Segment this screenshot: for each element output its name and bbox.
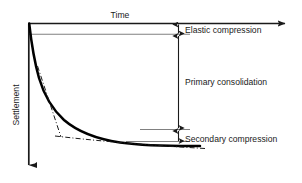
elastic-compression-label: Elastic compression [185, 25, 262, 35]
primary-consolidation-label: Primary consolidation [185, 77, 267, 87]
y-axis-label: Settlement [11, 84, 21, 126]
settlement-time-diagram: Time Settlement Elastic compression Prim… [0, 0, 302, 183]
secondary-compression-label: Secondary compression [185, 134, 277, 144]
x-axis-label: Time [111, 10, 130, 20]
